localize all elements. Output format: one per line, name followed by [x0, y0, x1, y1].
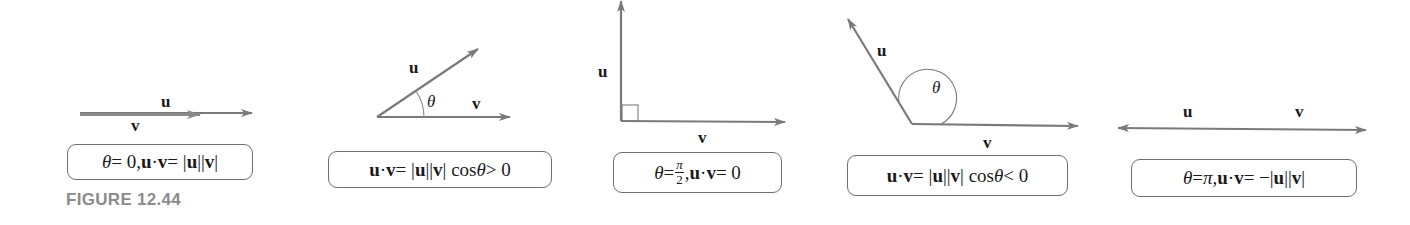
vector-v: v: [205, 151, 215, 173]
vector-u: u: [141, 151, 152, 173]
label-theta: θ: [427, 93, 435, 110]
vector-v: v: [904, 165, 914, 187]
theta-symbol: θ: [654, 162, 663, 184]
formula-box-theta-acute: u · v = |u||v| cos θ > 0: [328, 151, 552, 188]
vector-v: v: [158, 151, 168, 173]
label-v: v: [983, 134, 992, 151]
formula-text: =: [1192, 167, 1203, 189]
right-angle-marker: [622, 105, 638, 121]
formula-text: ||: [425, 159, 433, 181]
panel-1-vectors: [80, 113, 252, 115]
theta-symbol: θ: [994, 165, 1003, 187]
formula-text: > 0: [486, 159, 511, 181]
vector-v: v: [951, 165, 961, 187]
label-v: v: [698, 129, 707, 146]
formula-box-theta-pi: θ = π, u · v = −|u||v|: [1131, 159, 1357, 197]
vector-u: u: [689, 162, 700, 184]
label-u: u: [877, 42, 886, 59]
vector-v-arrow: [621, 121, 785, 122]
vector-v: v: [386, 159, 396, 181]
fraction-numerator: π: [675, 158, 684, 173]
formula-text: | cos: [960, 165, 994, 187]
label-u: u: [161, 93, 170, 110]
vector-v: v: [706, 162, 716, 184]
formula-box-theta-zero: θ = 0, u · v = |u||v|: [67, 144, 253, 180]
formula-text: = −|: [1244, 167, 1274, 189]
label-v: v: [1295, 103, 1304, 120]
label-v: v: [472, 95, 481, 112]
pi-symbol: π: [1203, 167, 1213, 189]
formula-text: =: [663, 162, 674, 184]
vector-u: u: [369, 159, 380, 181]
vector-v: v: [433, 159, 443, 181]
theta-symbol: θ: [1183, 167, 1192, 189]
vector-u: u: [187, 151, 198, 173]
vector-u: u: [1217, 167, 1228, 189]
formula-box-theta-right: θ = π2, u · v = 0: [613, 152, 782, 193]
vector-u: u: [1274, 167, 1285, 189]
fraction-denominator: 2: [676, 173, 683, 187]
vector-u: u: [932, 165, 943, 187]
theta-symbol: θ: [476, 159, 485, 181]
formula-text: |: [214, 151, 218, 173]
formula-text: = |: [167, 151, 186, 173]
formula-text: = 0: [716, 162, 741, 184]
formula-text: |: [1301, 167, 1305, 189]
theta-symbol: θ: [102, 151, 111, 173]
figure-caption: FIGURE 12.44: [66, 190, 181, 210]
label-v: v: [131, 117, 140, 134]
vector-v-arrow: [912, 124, 1078, 126]
formula-box-theta-obtuse: u · v = |u||v| cos θ < 0: [847, 155, 1068, 196]
label-u: u: [1183, 103, 1192, 120]
vector-u: u: [415, 159, 426, 181]
vector-v-arrow: [1242, 129, 1366, 130]
formula-text: ||: [943, 165, 951, 187]
formula-text: = |: [913, 165, 932, 187]
formula-text: < 0: [1003, 165, 1028, 187]
vector-u: u: [887, 165, 898, 187]
vector-v: v: [1292, 167, 1302, 189]
panel-3-vectors: [621, 1, 785, 122]
vector-u-arrow: [848, 19, 912, 124]
panel-5-vectors: [1118, 128, 1366, 130]
formula-text: ||: [197, 151, 205, 173]
vector-u-arrow: [1118, 128, 1242, 129]
formula-text: | cos: [443, 159, 477, 181]
panel-4-vectors: [848, 19, 1078, 126]
label-u: u: [598, 63, 607, 80]
panel-2-vectors: [377, 49, 510, 117]
vector-v: v: [1234, 167, 1244, 189]
formula-text: = 0,: [111, 151, 141, 173]
label-theta: θ: [932, 79, 940, 96]
label-u: u: [409, 59, 418, 76]
formula-text: ||: [1284, 167, 1292, 189]
angle-arc: [416, 91, 424, 117]
fraction-pi-over-2: π2: [675, 158, 684, 186]
formula-text: = |: [396, 159, 415, 181]
